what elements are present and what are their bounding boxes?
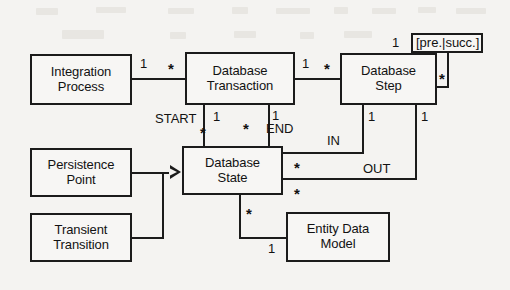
uml-diagram-canvas: Integration Process Database Transaction… bbox=[0, 0, 510, 290]
class-box-database-transaction[interactable]: Database Transaction bbox=[185, 52, 295, 105]
scan-artifact bbox=[334, 7, 348, 14]
scan-artifact bbox=[232, 7, 248, 14]
class-name-integration-process: Integration Process bbox=[51, 65, 111, 94]
class-name-transient-transition: Transient Transition bbox=[53, 223, 109, 252]
edge-database-transaction-to-database-step bbox=[295, 78, 340, 80]
edge-in-database-step-down bbox=[362, 105, 364, 153]
multiplicity-database-state-edm-many: * bbox=[246, 209, 252, 218]
edge-out-database-step-down bbox=[415, 105, 417, 179]
role-label-pre-succ: [pre.|succ.] bbox=[411, 33, 483, 53]
multiplicity-database-transaction-end: * bbox=[168, 64, 174, 73]
edge-generalization-bus bbox=[162, 172, 164, 239]
multiplicity-out-many: * bbox=[294, 189, 300, 198]
role-label-end: END bbox=[266, 122, 293, 135]
scan-artifact bbox=[456, 8, 486, 14]
multiplicity-start-one: 1 bbox=[213, 110, 220, 123]
role-label-in: IN bbox=[327, 134, 340, 147]
multiplicity-end-many: * bbox=[243, 124, 249, 133]
multiplicity-start-many: * bbox=[200, 128, 206, 137]
scan-artifact bbox=[62, 30, 104, 39]
role-label-out: OUT bbox=[363, 162, 390, 175]
multiplicity-out-one: 1 bbox=[421, 110, 428, 123]
class-name-database-state: Database State bbox=[205, 156, 260, 185]
edge-out-to-database-state bbox=[283, 178, 417, 180]
edge-transient-transition-to-bus bbox=[132, 237, 164, 239]
multiplicity-database-step-transaction-end: * bbox=[324, 64, 330, 73]
class-name-database-transaction: Database Transaction bbox=[207, 64, 273, 93]
scan-artifact bbox=[168, 8, 194, 14]
multiplicity-in-many: * bbox=[294, 163, 300, 172]
multiplicity-in-one: 1 bbox=[368, 110, 375, 123]
multiplicity-database-step-self-many: * bbox=[439, 74, 445, 83]
class-name-entity-data-model: Entity Data Model bbox=[307, 222, 370, 251]
scan-artifact bbox=[96, 7, 126, 13]
edge-database-state-to-entity-data-model bbox=[239, 237, 286, 239]
multiplicity-entity-data-model-one: 1 bbox=[268, 242, 275, 255]
scan-artifact bbox=[418, 7, 436, 13]
scan-artifact bbox=[170, 32, 186, 39]
multiplicity-database-transaction-step-end: 1 bbox=[302, 57, 309, 70]
class-name-database-step: Database Step bbox=[361, 64, 416, 93]
class-box-database-state[interactable]: Database State bbox=[182, 146, 283, 195]
class-box-persistence-point[interactable]: Persistence Point bbox=[30, 148, 132, 197]
multiplicity-integration-process-end: 1 bbox=[140, 57, 147, 70]
class-name-persistence-point: Persistence Point bbox=[48, 158, 115, 187]
scan-artifact bbox=[344, 31, 372, 38]
scan-artifact bbox=[276, 8, 310, 14]
class-box-entity-data-model[interactable]: Entity Data Model bbox=[286, 212, 390, 262]
edge-database-state-to-entity-data-model-down bbox=[239, 195, 241, 239]
class-box-integration-process[interactable]: Integration Process bbox=[30, 54, 132, 105]
edge-integration-process-to-database-transaction bbox=[132, 78, 185, 80]
class-box-database-step[interactable]: Database Step bbox=[340, 53, 437, 105]
generalization-arrowhead-icon bbox=[170, 165, 181, 179]
multiplicity-database-step-self-one: 1 bbox=[392, 36, 399, 49]
scan-artifact bbox=[234, 31, 256, 38]
edge-in-to-database-state bbox=[283, 152, 364, 154]
edge-persistence-point-to-bus bbox=[132, 172, 164, 174]
class-box-transient-transition[interactable]: Transient Transition bbox=[30, 213, 132, 262]
scan-artifact bbox=[300, 32, 314, 39]
scan-artifact bbox=[372, 8, 396, 14]
scan-artifact bbox=[36, 8, 58, 15]
role-label-start: START bbox=[155, 112, 196, 125]
